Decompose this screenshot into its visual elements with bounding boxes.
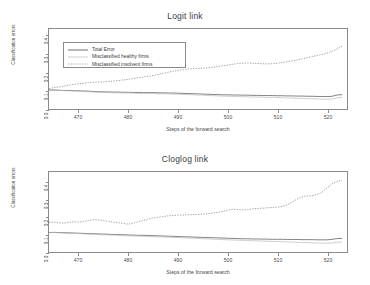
series-misclassified-healthy-firms — [49, 233, 342, 244]
x-tick-label: 500 — [216, 114, 240, 120]
legend-label: Misclassified insolvent firms — [89, 62, 152, 67]
x-tick-mark — [78, 253, 79, 256]
x-tick-label: 470 — [66, 114, 90, 120]
legend-key-solid-icon — [67, 47, 89, 53]
x-axis-ticks-logit: 470480490500510520 — [48, 110, 348, 126]
x-tick-mark — [178, 253, 179, 256]
series-lines-cloglog — [49, 172, 347, 252]
x-tick-label: 520 — [316, 114, 340, 120]
x-tick-mark — [128, 110, 129, 113]
legend-label: Total Error — [89, 47, 115, 52]
x-tick-mark — [78, 110, 79, 113]
x-tick-mark — [328, 110, 329, 113]
x-tick-label: 470 — [66, 257, 90, 263]
x-tick-mark — [328, 253, 329, 256]
x-tick-label: 510 — [266, 114, 290, 120]
y-axis-ticks-cloglog: 0.00.10.20.30.4 — [20, 171, 46, 253]
chart-title-logit: Logit link — [0, 11, 370, 21]
x-tick-mark — [278, 110, 279, 113]
series-total-error — [49, 232, 342, 239]
x-axis-ticks-cloglog: 470480490500510520 — [48, 253, 348, 269]
x-tick-mark — [128, 253, 129, 256]
chart-panel-cloglog: Cloglog link Classification errors 0.00.… — [0, 143, 370, 285]
y-axis-label-logit: Classification errors — [11, 10, 16, 80]
legend-label: Misclassified healthy firms — [89, 54, 149, 59]
x-tick-label: 480 — [116, 257, 140, 263]
chart-title-cloglog: Cloglog link — [0, 154, 370, 164]
x-tick-mark — [278, 253, 279, 256]
y-axis-ticks-logit: 0.00.10.20.30.4 — [20, 28, 46, 110]
y-axis-label-cloglog: Classification errors — [11, 153, 16, 223]
x-axis-label-logit: Steps of the forward search — [48, 126, 348, 132]
x-tick-mark — [228, 253, 229, 256]
x-tick-label: 490 — [166, 114, 190, 120]
x-tick-mark — [228, 110, 229, 113]
chart-panel-logit: Logit link Classification errors 0.00.10… — [0, 0, 370, 142]
legend-item: Misclassified healthy firms — [67, 53, 181, 60]
series-total-error — [49, 90, 342, 97]
legend-key-dotted-icon — [67, 61, 89, 67]
x-axis-label-cloglog: Steps of the forward search — [48, 269, 348, 275]
plot-area-cloglog — [48, 171, 348, 253]
plot-area-logit — [48, 28, 348, 110]
x-tick-label: 510 — [266, 257, 290, 263]
series-misclassified-insolvent-firms — [49, 180, 342, 224]
x-tick-mark — [178, 110, 179, 113]
legend-item: Misclassified insolvent firms — [67, 61, 181, 68]
figure-canvas: Logit link Classification errors 0.00.10… — [0, 0, 370, 285]
x-tick-label: 500 — [216, 257, 240, 263]
legend-item: Total Error — [67, 46, 181, 53]
x-tick-label: 490 — [166, 257, 190, 263]
legend-key-solid-light-icon — [67, 54, 89, 60]
series-lines-logit — [49, 29, 347, 109]
legend-logit: Total Error Misclassified healthy firms … — [63, 42, 186, 68]
x-tick-label: 520 — [316, 257, 340, 263]
x-tick-label: 480 — [116, 114, 140, 120]
